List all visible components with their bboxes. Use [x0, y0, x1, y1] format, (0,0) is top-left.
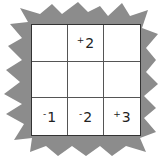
puzzle-grid: +2 -1 -2 +3	[31, 24, 141, 136]
cell-sign: +	[113, 109, 121, 119]
cell-value: 1	[47, 109, 56, 125]
grid-cell[interactable]: -2	[68, 98, 104, 135]
cell-value: 2	[83, 109, 92, 125]
grid-cell[interactable]: +3	[104, 98, 140, 135]
grid-cell[interactable]	[32, 62, 68, 99]
grid-cell[interactable]: +2	[68, 25, 104, 62]
cell-sign: -	[43, 109, 46, 119]
grid-cell[interactable]	[104, 25, 140, 62]
grid-cell[interactable]	[32, 25, 68, 62]
cell-sign: +	[77, 35, 85, 45]
cell-value: 3	[122, 109, 131, 125]
cell-value: 2	[85, 35, 94, 51]
grid-cell[interactable]	[68, 62, 104, 99]
cell-sign: -	[79, 109, 82, 119]
grid-cell[interactable]	[104, 62, 140, 99]
grid-cell[interactable]: -1	[32, 98, 68, 135]
